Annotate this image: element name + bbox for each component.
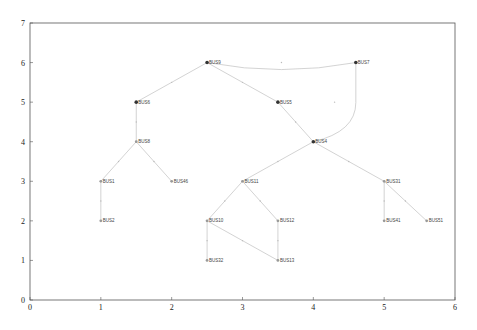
node-marker-icon xyxy=(277,219,280,222)
node-bus11: BUS11 xyxy=(241,179,259,184)
x-tick-label: 6 xyxy=(453,303,457,312)
node-label: BUS12 xyxy=(280,218,295,223)
x-tick-label: 4 xyxy=(311,303,315,312)
edge-marker xyxy=(206,240,207,241)
node-marker-icon xyxy=(383,180,386,183)
y-tick-label: 4 xyxy=(21,138,25,147)
node-label: BUS51 xyxy=(429,218,444,223)
edge-bus9-bus7 xyxy=(207,63,356,70)
node-bus46: BUS46 xyxy=(170,179,188,184)
edge-marker xyxy=(242,240,243,241)
y-tick-label: 6 xyxy=(21,59,25,68)
edge-marker xyxy=(224,200,225,201)
edge-marker xyxy=(295,121,296,122)
node-bus51: BUS51 xyxy=(425,218,443,223)
plot-frame xyxy=(30,23,455,300)
node-label: BUS4 xyxy=(315,139,327,144)
node-label: BUS8 xyxy=(138,139,150,144)
edge-marker xyxy=(242,82,243,83)
node-marker-icon xyxy=(135,140,138,143)
edge-marker xyxy=(405,200,406,201)
node-bus13: BUS13 xyxy=(277,258,295,263)
node-marker-icon xyxy=(425,219,428,222)
node-marker-icon xyxy=(99,180,102,183)
node-label: BUS41 xyxy=(386,218,401,223)
y-tick-label: 7 xyxy=(21,19,25,28)
node-bus2: BUS2 xyxy=(99,218,115,223)
x-tick-label: 5 xyxy=(382,303,386,312)
x-tick-label: 2 xyxy=(170,303,174,312)
node-label: BUS9 xyxy=(209,60,221,65)
node-bus1: BUS1 xyxy=(99,179,115,184)
x-tick-label: 3 xyxy=(241,303,245,312)
node-label: BUS31 xyxy=(386,179,401,184)
node-bus6: BUS6 xyxy=(134,100,150,105)
node-bus7: BUS7 xyxy=(354,60,370,65)
x-tick-label: 0 xyxy=(28,303,32,312)
node-bus4: BUS4 xyxy=(312,139,328,144)
edge-marker xyxy=(348,161,349,162)
node-marker-icon xyxy=(99,219,102,222)
node-label: BUS10 xyxy=(209,218,224,223)
edge-marker xyxy=(383,200,384,201)
y-axis: 01234567 xyxy=(21,19,33,305)
y-tick-label: 5 xyxy=(21,98,25,107)
edge-marker xyxy=(171,82,172,83)
node-marker-icon xyxy=(170,180,173,183)
node-label: BUS7 xyxy=(358,60,370,65)
node-marker-icon xyxy=(241,180,244,183)
x-tick-label: 1 xyxy=(99,303,103,312)
edge-marker xyxy=(281,62,282,63)
bus-network-chart: BUS9BUS7BUS6BUS5BUS4BUS8BUS1BUS46BUS11BU… xyxy=(0,0,477,330)
node-label: BUS5 xyxy=(280,100,292,105)
edge-marker xyxy=(277,240,278,241)
node-bus32: BUS32 xyxy=(206,258,224,263)
node-label: BUS13 xyxy=(280,258,295,263)
edge-marker xyxy=(118,161,119,162)
y-tick-label: 3 xyxy=(21,177,25,186)
edge-marker xyxy=(100,200,101,201)
y-tick-label: 0 xyxy=(21,296,25,305)
node-bus10: BUS10 xyxy=(206,218,224,223)
node-marker-icon xyxy=(383,219,386,222)
node-bus41: BUS41 xyxy=(383,218,401,223)
edge-marker xyxy=(136,121,137,122)
edge-marker xyxy=(153,161,154,162)
node-label: BUS32 xyxy=(209,258,224,263)
y-tick-label: 1 xyxy=(21,256,25,265)
node-label: BUS1 xyxy=(103,179,115,184)
edge-marker xyxy=(260,200,261,201)
edge-marker xyxy=(277,161,278,162)
node-bus8: BUS8 xyxy=(135,139,151,144)
node-label: BUS2 xyxy=(103,218,115,223)
node-bus31: BUS31 xyxy=(383,179,401,184)
y-tick-label: 2 xyxy=(21,217,25,226)
node-bus5: BUS5 xyxy=(276,100,292,105)
nodes-layer: BUS9BUS7BUS6BUS5BUS4BUS8BUS1BUS46BUS11BU… xyxy=(99,60,443,263)
node-bus12: BUS12 xyxy=(277,218,295,223)
edges-layer xyxy=(100,62,427,261)
edge-marker xyxy=(334,101,335,102)
x-axis: 0123456 xyxy=(28,297,457,312)
node-label: BUS11 xyxy=(245,179,259,184)
node-marker-icon xyxy=(277,259,280,262)
node-label: BUS6 xyxy=(138,100,150,105)
node-bus9: BUS9 xyxy=(205,60,221,65)
node-marker-icon xyxy=(206,259,209,262)
node-label: BUS46 xyxy=(174,179,189,184)
node-marker-icon xyxy=(206,219,209,222)
